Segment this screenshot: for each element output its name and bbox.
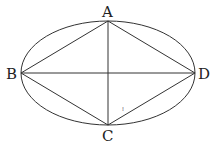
ellipse-rhombus-figure: A B C D ⁞ <box>0 0 217 146</box>
segment-AB <box>21 21 108 73</box>
annotation-mark: ⁞ <box>122 105 124 113</box>
diagram-canvas: A B C D ⁞ <box>0 0 217 146</box>
label-B: B <box>6 65 17 83</box>
label-C: C <box>102 127 113 145</box>
label-D: D <box>198 65 210 83</box>
segment-BC <box>21 73 108 125</box>
segment-CD <box>108 73 195 125</box>
segment-DA <box>108 21 195 73</box>
label-A: A <box>101 3 113 21</box>
